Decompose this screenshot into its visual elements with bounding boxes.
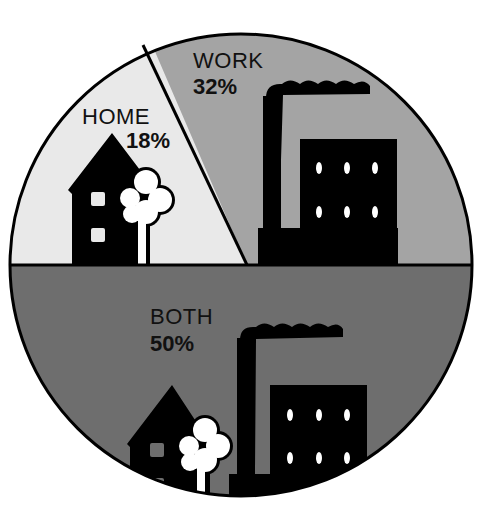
label-work: WORK: [193, 48, 263, 73]
pct-both: 50%: [150, 331, 194, 356]
label-both: BOTH: [150, 304, 213, 329]
pie-chart: WORK 32% HOME 18% BOTH 50%: [0, 0, 491, 519]
label-home: HOME: [82, 104, 150, 129]
pct-work: 32%: [193, 74, 237, 99]
pct-home: 18%: [126, 128, 170, 153]
